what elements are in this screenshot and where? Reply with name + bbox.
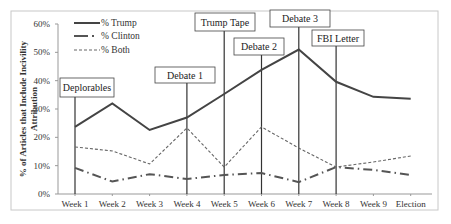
legend-label: % Clinton [101,31,140,41]
x-tick-label: Election [396,199,426,209]
series-both-line [75,127,411,167]
y-tick-label: 0% [38,189,51,199]
x-tick-label: Week 4 [173,199,201,209]
event-label: Deplorables [63,82,111,93]
x-tick-label: Week 1 [61,199,88,209]
series-trump-line [75,50,411,130]
x-tick-label: Week 9 [360,199,388,209]
y-axis-label: % of Articles that Include IncivilityAtt… [18,40,39,177]
event-label: Trump Tape [201,17,250,28]
legend-item-both: % Both [74,45,130,55]
event-label: Debate 1 [167,70,203,81]
x-tick-label: Week 8 [323,199,351,209]
y-tick-label: 50% [34,47,51,57]
y-axis-label-line2: Attribution [29,87,39,131]
x-axis: Week 1Week 2Week 3Week 4Week 5Week 6Week… [58,194,432,209]
x-tick-label: Week 7 [285,199,313,209]
y-tick-label: 40% [34,76,51,86]
event-deplorables: Deplorables [60,78,114,194]
x-tick-label: Week 2 [99,199,126,209]
event-label: FBI Letter [317,33,360,44]
y-tick-label: 10% [34,161,51,171]
legend-label: % Both [101,45,130,55]
x-tick-label: Week 5 [211,199,239,209]
event-label: Debate 2 [241,41,277,52]
incivility-line-chart: 0%10%20%30%40%50%60% Week 1Week 2Week 3W… [0,0,451,224]
legend-item-clinton: % Clinton [74,31,140,41]
data-series [75,50,411,183]
x-tick-label: Week 6 [248,199,276,209]
event-fbi-letter: FBI Letter [312,30,364,194]
y-tick-label: 60% [34,19,51,29]
legend-label: % Trump [101,18,137,28]
x-tick-label: Week 3 [136,199,164,209]
legend-item-trump: % Trump [74,18,137,28]
event-label: Debate 3 [282,13,318,24]
series-clinton-line [75,167,411,182]
legend: % Trump% Clinton% Both [74,18,140,55]
y-axis-label-line1: % of Articles that Include Incivility [18,40,28,177]
y-tick-label: 20% [34,132,51,142]
